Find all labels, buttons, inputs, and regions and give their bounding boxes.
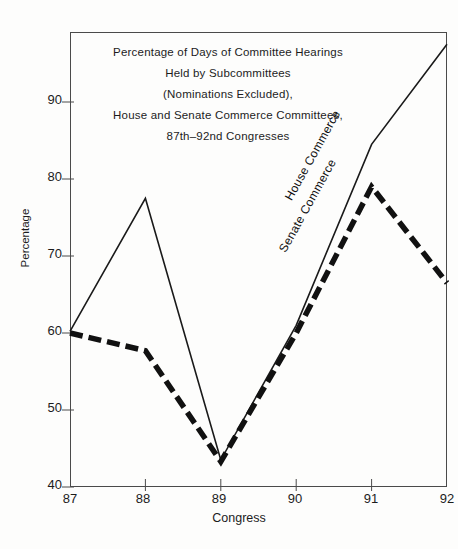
xtick-label-92: 92 (427, 491, 458, 506)
ytick-label-80: 80 (28, 169, 62, 184)
chart-title-line-2: Held by Subcommittees (78, 63, 378, 84)
chart-title-line-1: Percentage of Days of Committee Hearings (78, 42, 378, 63)
ytick-label-90: 90 (28, 92, 62, 107)
ytick-label-40: 40 (28, 477, 62, 492)
x-axis-title: Congress (179, 511, 299, 525)
y-axis-title: Percentage (19, 193, 31, 283)
xtick-label-91: 91 (351, 491, 391, 506)
ytick-label-50: 50 (28, 400, 62, 415)
figure: Percentage of Days of Committee Hearings… (0, 0, 458, 549)
ytick-label-60: 60 (28, 323, 62, 338)
ytick-label-70: 70 (28, 246, 62, 261)
xtick-label-89: 89 (199, 491, 239, 506)
xtick-label-87: 87 (50, 491, 90, 506)
xtick-label-88: 88 (123, 491, 163, 506)
chart-title-line-3: (Nominations Excluded), (78, 84, 378, 105)
xtick-label-90: 90 (275, 491, 315, 506)
